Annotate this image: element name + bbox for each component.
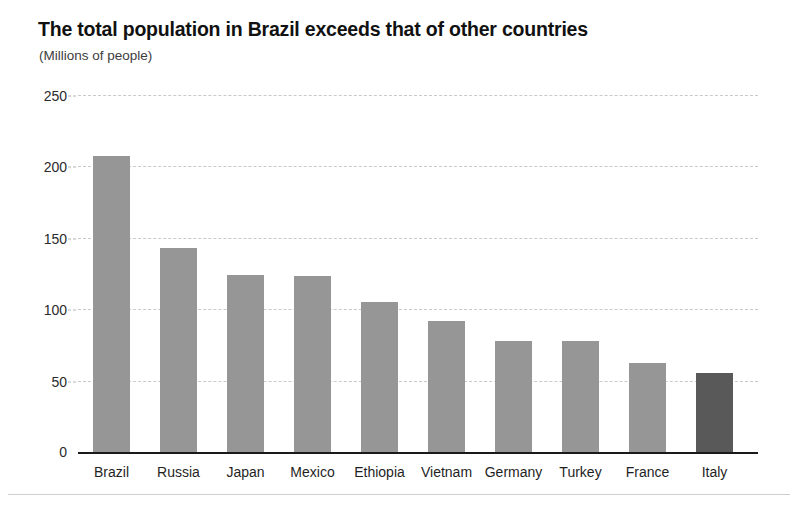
bar-germany: Germany: [495, 341, 532, 452]
bar-mexico: Mexico: [294, 276, 331, 452]
y-axis-tick-mark: [68, 310, 76, 311]
x-axis-label-brazil: Brazil: [94, 464, 129, 480]
x-axis-label-russia: Russia: [157, 464, 200, 480]
bar-chart-figure: The total population in Brazil exceeds t…: [0, 0, 798, 505]
x-axis-label-ethiopia: Ethiopia: [354, 464, 405, 480]
x-axis-label-vietnam: Vietnam: [421, 464, 472, 480]
x-axis-label-france: France: [626, 464, 670, 480]
y-axis-tick-label: 100: [44, 302, 67, 318]
bar-italy: Italy: [696, 373, 733, 452]
bar-russia: Russia: [160, 248, 197, 452]
x-axis-label-germany: Germany: [485, 464, 543, 480]
bar-japan: Japan: [227, 275, 264, 452]
y-axis-tick-label: 250: [44, 88, 67, 104]
y-axis-tick-mark: [68, 381, 76, 382]
chart-title: The total population in Brazil exceeds t…: [38, 18, 588, 41]
chart-subtitle: (Millions of people): [39, 48, 152, 63]
y-axis-tick-label: 150: [44, 231, 67, 247]
y-axis-tick-label: 50: [51, 374, 67, 390]
x-axis-label-turkey: Turkey: [559, 464, 601, 480]
x-axis-label-japan: Japan: [226, 464, 264, 480]
y-axis-tick-mark: [68, 238, 76, 239]
footer-divider: [8, 494, 790, 495]
bars-group: BrazilRussiaJapanMexicoEthiopiaVietnamGe…: [78, 95, 758, 452]
plot-area: 050100150200250 BrazilRussiaJapanMexicoE…: [78, 95, 758, 452]
bar-france: France: [629, 363, 666, 452]
x-axis-label-mexico: Mexico: [290, 464, 334, 480]
y-axis-tick-label: 200: [44, 159, 67, 175]
y-axis-tick-mark: [68, 96, 76, 97]
bar-ethiopia: Ethiopia: [361, 302, 398, 452]
y-axis-tick-label: 0: [59, 444, 67, 460]
bar-vietnam: Vietnam: [428, 321, 465, 452]
axis-baseline: 0: [78, 452, 758, 454]
bar-brazil: Brazil: [93, 156, 130, 452]
y-axis-tick-mark: [68, 167, 76, 168]
x-axis-label-italy: Italy: [702, 464, 728, 480]
bar-turkey: Turkey: [562, 341, 599, 452]
